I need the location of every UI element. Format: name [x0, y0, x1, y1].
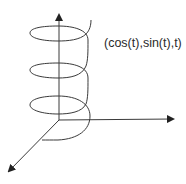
curve-label: (cos(t),sin(t),t): [104, 36, 182, 50]
helix-diagram: [0, 0, 186, 184]
